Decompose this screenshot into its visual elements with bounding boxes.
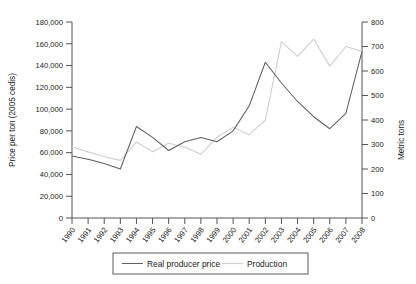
chart-svg: Price per ton (2005 cedis) Metric tons 0… — [0, 0, 416, 284]
x-tick-label: 2002 — [253, 226, 271, 245]
y-tick-label-left: 0 — [59, 214, 63, 223]
x-tick-label: 2001 — [237, 226, 255, 245]
y-tick-label-left: 160,000 — [36, 40, 63, 49]
x-tick-label: 2005 — [301, 226, 319, 245]
series-line-real-producer-price — [72, 51, 362, 169]
y-tick-label-left: 40,000 — [40, 170, 63, 179]
y-tick-label-left: 60,000 — [40, 148, 63, 157]
x-tick-label: 1997 — [172, 226, 190, 245]
left-axis: 020,00040,00060,00080,000100,000120,0001… — [36, 18, 72, 223]
x-tick-label: 2008 — [350, 226, 368, 245]
x-tick-label: 1994 — [124, 226, 142, 245]
y-tick-label-right: 500 — [371, 91, 384, 100]
x-tick-label: 1995 — [140, 226, 158, 245]
y-tick-label-right: 200 — [371, 165, 384, 174]
y-tick-label-right: 700 — [371, 42, 384, 51]
x-tick-label: 1990 — [60, 226, 78, 245]
y-tick-label-left: 100,000 — [36, 105, 63, 114]
x-tick-label: 2000 — [221, 226, 239, 245]
y-tick-label-right: 400 — [371, 116, 384, 125]
x-tick-label: 1992 — [92, 226, 110, 245]
x-tick-label: 2003 — [269, 226, 287, 245]
y-tick-label-left: 20,000 — [40, 192, 63, 201]
plot-area — [72, 39, 362, 169]
y-tick-label-right: 0 — [371, 214, 375, 223]
y-tick-label-left: 140,000 — [36, 61, 63, 70]
x-axis: 1990199119921993199419951996199719981999… — [60, 218, 368, 245]
y-tick-label-right: 800 — [371, 18, 384, 27]
x-tick-label: 1993 — [108, 226, 126, 245]
x-tick-label: 2004 — [285, 226, 303, 245]
y-tick-label-right: 600 — [371, 67, 384, 76]
x-tick-label: 2007 — [333, 226, 351, 245]
y-tick-label-right: 300 — [371, 140, 384, 149]
x-tick-label: 1996 — [156, 226, 174, 245]
x-tick-label: 1991 — [76, 226, 94, 245]
y-tick-label-left: 180,000 — [36, 18, 63, 27]
y-axis-title-right: Metric tons — [397, 120, 406, 160]
legend-label-real-producer-price: Real producer price — [147, 259, 220, 269]
y-tick-label-left: 80,000 — [40, 127, 63, 136]
legend-label-production: Production — [247, 259, 287, 269]
x-tick-label: 1998 — [188, 226, 206, 245]
y-tick-label-left: 120,000 — [36, 83, 63, 92]
y-tick-label-right: 100 — [371, 189, 384, 198]
chart-container: Price per ton (2005 cedis) Metric tons 0… — [0, 0, 416, 284]
right-axis: 0100200300400500600700800 — [362, 18, 384, 223]
legend: Real producer price Production — [113, 253, 308, 274]
y-axis-title-left: Price per ton (2005 cedis) — [8, 73, 17, 167]
x-tick-label: 2006 — [317, 226, 335, 245]
x-tick-label: 1999 — [205, 226, 223, 245]
